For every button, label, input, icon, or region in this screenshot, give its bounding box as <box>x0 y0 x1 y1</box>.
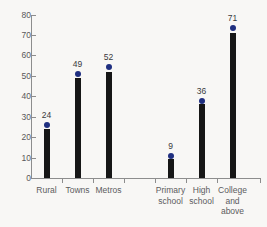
y-tick-label: 10 <box>7 154 31 163</box>
value-label: 52 <box>104 53 113 62</box>
value-label: 9 <box>168 142 173 151</box>
value-label: 36 <box>197 87 206 96</box>
x-tick-mark <box>260 178 261 183</box>
bar <box>44 129 50 178</box>
plot-area: 80 70 60 50 40 30 20 10 <box>0 0 267 227</box>
y-axis-tick-80: 80 <box>0 11 31 20</box>
y-axis-tick-50: 50 <box>0 72 31 81</box>
x-tick-mark <box>124 178 125 183</box>
bar-group-college-and-above[interactable]: 71 College and above <box>217 0 248 227</box>
value-label: 49 <box>73 60 82 69</box>
value-label: 71 <box>228 14 237 23</box>
y-tick-label: 0 <box>7 174 31 183</box>
bar <box>106 72 112 178</box>
y-axis-tick-60: 60 <box>0 51 31 60</box>
x-axis-label-metros: Metros <box>87 185 131 196</box>
y-axis-tick-20: 20 <box>0 133 31 142</box>
y-tick-label: 70 <box>7 31 31 40</box>
chart-container: 80 70 60 50 40 30 20 10 <box>0 0 267 227</box>
bar <box>199 104 205 178</box>
y-tick-label: 60 <box>7 51 31 60</box>
marker-dot <box>75 71 81 77</box>
y-axis-tick-40: 40 <box>0 92 31 101</box>
y-tick-label: 40 <box>7 92 31 101</box>
marker-dot <box>230 25 236 31</box>
bar <box>230 33 236 178</box>
bar <box>168 159 174 178</box>
value-label: 24 <box>42 111 51 120</box>
y-axis-tick-70: 70 <box>0 31 31 40</box>
marker-dot <box>106 64 112 70</box>
y-tick-label: 80 <box>7 11 31 20</box>
y-axis-tick-10: 10 <box>0 154 31 163</box>
bar <box>75 78 81 178</box>
y-axis-tick-0: 0 <box>0 174 31 183</box>
y-tick-label: 20 <box>7 133 31 142</box>
marker-dot <box>44 122 50 128</box>
y-tick-label: 50 <box>7 72 31 81</box>
y-axis-tick-30: 30 <box>0 113 31 122</box>
y-tick-label: 30 <box>7 113 31 122</box>
bar-group-metros[interactable]: 52 Metros <box>93 0 124 227</box>
x-axis-label-college-and-above: College and above <box>211 185 255 217</box>
